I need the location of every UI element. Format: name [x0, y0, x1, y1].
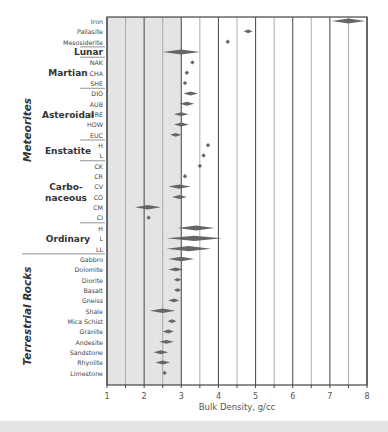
density-point-marker — [183, 81, 187, 85]
density-point-marker — [190, 60, 194, 64]
density-point-marker — [183, 174, 187, 178]
density-range-marker — [244, 30, 253, 34]
group-label: Terrestrial Rocks — [21, 266, 33, 365]
row-label: H — [98, 225, 103, 232]
density-point-marker — [226, 40, 230, 44]
bulk-density-chart: IronPallasiteMesosideriteLunarNAKCHASHED… — [0, 0, 388, 432]
row-label: Gabbro — [80, 256, 103, 263]
density-point-marker — [185, 71, 189, 75]
row-label: HOW — [87, 121, 104, 128]
x-axis: Bulk Density, g/cc 12345678 — [104, 385, 369, 412]
row-label: AUB — [90, 101, 103, 108]
density-point-marker — [201, 153, 205, 157]
row-label: CI — [97, 214, 103, 221]
row-label: Mica Schist — [68, 318, 104, 325]
x-tick-label: 2 — [142, 392, 147, 401]
row-label: H — [98, 142, 103, 149]
row-label: Sandstone — [70, 349, 103, 356]
row-label: Gneiss — [82, 297, 103, 304]
x-tick-label: 8 — [364, 392, 369, 401]
x-axis-title: Bulk Density, g/cc — [199, 402, 276, 412]
row-label: LL — [96, 246, 104, 253]
subgroup-label: Carbo- — [49, 182, 83, 192]
x-tick-label: 4 — [216, 392, 221, 401]
density-range-marker — [178, 225, 215, 230]
density-point-marker — [198, 164, 202, 168]
row-label: Diorite — [82, 277, 103, 284]
row-label: CR — [94, 173, 103, 180]
row-label: L — [99, 235, 103, 242]
group-label: Meteorites — [21, 98, 33, 162]
subgroup-label: Ordinary — [46, 234, 91, 244]
row-label: Shale — [86, 308, 104, 315]
subgroup-label: Enstatite — [45, 146, 91, 156]
row-label: Basalt — [83, 287, 103, 294]
row-label: CO — [94, 194, 103, 201]
x-tick-label: 7 — [327, 392, 332, 401]
row-label: SHE — [90, 80, 103, 87]
density-range-marker — [332, 19, 365, 24]
subgroup-label: Asteroidal — [42, 110, 94, 120]
row-label: Pallasite — [77, 28, 103, 35]
subgroup-label: Martian — [48, 68, 87, 78]
row-label: NAK — [90, 59, 104, 66]
row-label: Dolomite — [74, 266, 103, 273]
bottom-band — [0, 421, 388, 432]
row-label: Limestone — [70, 370, 103, 377]
row-label: L — [99, 152, 103, 159]
row-label: CHA — [90, 70, 104, 77]
row-label: CM — [93, 204, 103, 211]
row-label: Mesosiderite — [63, 39, 103, 46]
x-tick-label: 3 — [179, 392, 184, 401]
x-tick-label: 1 — [104, 392, 109, 401]
row-label: Granite — [80, 328, 104, 335]
row-label: DIO — [91, 90, 103, 97]
density-point-marker — [206, 143, 210, 147]
row-label: CK — [94, 163, 103, 170]
x-tick-label: 5 — [253, 392, 258, 401]
row-label: EUC — [90, 132, 104, 139]
row-label: Rhyolite — [77, 359, 103, 367]
x-tick-label: 6 — [290, 392, 295, 401]
row-label: CV — [94, 183, 103, 190]
subgroup-label: naceous — [45, 193, 87, 203]
row-label: Andesite — [75, 339, 103, 346]
density-range-marker — [183, 91, 198, 95]
row-label: Iron — [91, 18, 103, 25]
row-label: Lunar — [74, 47, 104, 57]
